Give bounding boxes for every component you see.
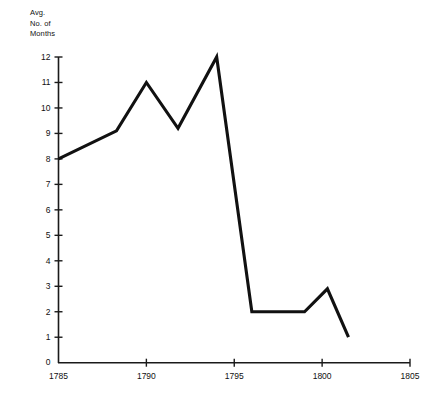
y-tick-label: 2 <box>46 307 51 317</box>
y-tick-label: 5 <box>46 230 51 240</box>
chart-container: Avg. No. of Months 0123456789101112 1785… <box>0 0 432 413</box>
data-line-avg-months <box>59 57 349 337</box>
y-tick-label: 8 <box>46 154 51 164</box>
y-tick-label: 10 <box>41 103 51 113</box>
y-tick-label: 7 <box>46 179 51 189</box>
y-tick-label: 9 <box>46 128 51 138</box>
y-tick-label: 1 <box>46 332 51 342</box>
y-tick-label: 0 <box>46 357 51 367</box>
x-tick-label: 1790 <box>137 371 156 381</box>
x-tick-label: 1800 <box>313 371 332 381</box>
y-tick-label: 6 <box>46 205 51 215</box>
line-chart-plot: 0123456789101112 17851790179518001805 <box>0 0 432 413</box>
x-tick-label: 1805 <box>401 371 420 381</box>
y-tick-label: 11 <box>42 77 51 87</box>
x-tick-label: 1785 <box>49 371 68 381</box>
x-axis-group: 17851790179518001805 <box>49 359 420 381</box>
data-series-group <box>59 57 349 337</box>
y-tick-label: 4 <box>46 256 51 266</box>
x-tick-label: 1795 <box>225 371 244 381</box>
y-tick-label: 12 <box>41 52 51 62</box>
y-axis-group: 0123456789101112 <box>41 52 62 368</box>
y-tick-label: 3 <box>46 281 51 291</box>
